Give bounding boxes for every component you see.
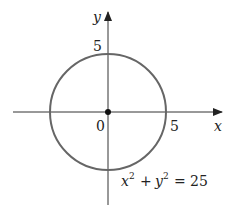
y-axis-label: y xyxy=(92,9,102,25)
svg-text:+: + xyxy=(140,173,152,189)
origin-point xyxy=(105,109,111,115)
x-tick-label: 5 xyxy=(170,118,179,134)
origin-label: 0 xyxy=(96,118,105,134)
svg-text:25: 25 xyxy=(190,173,208,189)
circle-diagram: y 5 0 5 x x 2 + y 2 = 25 xyxy=(0,0,234,205)
equation-label: x 2 + y 2 = 25 xyxy=(121,171,208,189)
y-tick-label: 5 xyxy=(93,38,102,54)
svg-text:2: 2 xyxy=(129,171,135,181)
x-axis-label: x xyxy=(214,118,222,134)
svg-text:2: 2 xyxy=(163,171,169,181)
svg-text:x: x xyxy=(121,173,129,189)
svg-text:=: = xyxy=(174,173,186,189)
